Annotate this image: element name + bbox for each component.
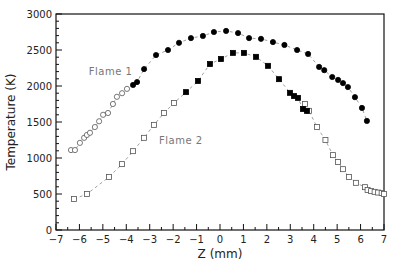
x-tick-label: −2: [166, 234, 181, 245]
open-square-marker: [336, 159, 341, 164]
x-tick-label: 6: [357, 234, 363, 245]
open-circle-marker: [100, 112, 105, 117]
filled-circle-marker: [246, 36, 251, 41]
x-tick-label: −5: [95, 234, 110, 245]
filled-circle-marker: [188, 36, 193, 41]
open-square-marker: [106, 175, 111, 180]
x-tick-label: −1: [189, 234, 204, 245]
filled-circle-marker: [223, 28, 228, 33]
temperature-profile-chart: 050010001500200025003000 −7−6−5−4−3−2−10…: [0, 0, 394, 270]
x-tick-label: −4: [119, 234, 134, 245]
filled-circle-marker: [270, 39, 275, 44]
filled-circle-marker: [330, 74, 335, 79]
filled-square-marker: [195, 78, 200, 83]
filled-square-marker: [207, 62, 212, 67]
filled-square-marker: [254, 54, 259, 59]
x-tick-label: 4: [311, 234, 317, 245]
filled-square-marker: [266, 63, 271, 68]
y-tick-label: 1500: [27, 117, 52, 128]
open-square-marker: [84, 192, 89, 197]
filled-circle-marker: [359, 105, 364, 110]
open-square-marker: [131, 149, 136, 154]
series-trend-line: [71, 31, 367, 150]
open-circle-marker: [110, 101, 115, 106]
open-circle-marker: [77, 140, 82, 145]
open-square-marker: [347, 175, 352, 180]
open-square-marker: [72, 197, 77, 202]
filled-square-marker: [230, 50, 235, 55]
y-axis-ticks: 050010001500200025003000: [27, 9, 62, 236]
open-circle-marker: [114, 94, 119, 99]
filled-circle-marker: [211, 29, 216, 34]
x-tick-label: 3: [287, 234, 293, 245]
filled-circle-marker: [335, 77, 340, 82]
filled-circle-marker: [165, 47, 170, 52]
x-tick-label: 0: [217, 234, 223, 245]
open-square-marker: [151, 122, 156, 127]
filled-circle-marker: [282, 42, 287, 47]
x-tick-label: 1: [240, 234, 246, 245]
open-circle-marker: [97, 119, 102, 124]
filled-square-marker: [277, 77, 282, 82]
open-square-marker: [162, 111, 167, 116]
x-tick-label: −3: [142, 234, 157, 245]
filled-square-marker: [184, 90, 189, 95]
open-circle-marker: [119, 91, 124, 96]
y-tick-label: 2000: [27, 81, 52, 92]
flame-1-label: Flame 1: [89, 66, 133, 77]
y-tick-label: 1000: [27, 153, 52, 164]
y-tick-label: 2500: [27, 45, 52, 56]
open-circle-marker: [92, 124, 97, 129]
y-tick-label: 3000: [27, 9, 52, 20]
open-square-marker: [353, 180, 358, 185]
filled-circle-marker: [340, 81, 345, 86]
filled-circle-marker: [153, 52, 158, 57]
x-tick-label: −7: [49, 234, 64, 245]
filled-circle-marker: [364, 118, 369, 123]
y-axis-title: Temperature (K): [4, 73, 18, 171]
filled-circle-marker: [258, 36, 263, 41]
filled-circle-marker: [235, 30, 240, 35]
x-axis-ticks: −7−6−5−4−3−2−101234567: [49, 224, 388, 245]
open-square-marker: [323, 138, 328, 143]
filled-square-marker: [218, 57, 223, 62]
open-square-marker: [330, 153, 335, 158]
plot-frame: [56, 14, 384, 230]
filled-circle-marker: [305, 51, 310, 56]
x-tick-label: −6: [72, 234, 87, 245]
y-tick-label: 500: [33, 189, 52, 200]
open-circle-marker: [87, 130, 92, 135]
filled-circle-marker: [294, 47, 299, 52]
open-square-marker: [172, 100, 177, 105]
filled-circle-marker: [352, 95, 357, 100]
filled-square-marker: [241, 50, 246, 55]
filled-circle-marker: [134, 79, 139, 84]
x-tick-label: 5: [334, 234, 340, 245]
x-axis-title: Z (mm): [198, 247, 243, 261]
filled-circle-marker: [176, 40, 181, 45]
open-circle-marker: [72, 147, 77, 152]
open-square-marker: [314, 125, 319, 130]
filled-square-marker: [304, 108, 309, 113]
open-circle-marker: [124, 86, 129, 91]
x-tick-label: 2: [264, 234, 270, 245]
filled-circle-marker: [322, 68, 327, 73]
filled-circle-marker: [141, 66, 146, 71]
open-square-marker: [142, 135, 147, 140]
filled-square-marker: [296, 95, 301, 100]
open-square-marker: [382, 192, 387, 197]
open-square-marker: [341, 167, 346, 172]
filled-circle-marker: [317, 64, 322, 69]
open-square-marker: [303, 102, 308, 107]
data-series: [68, 28, 386, 201]
filled-circle-marker: [200, 33, 205, 38]
filled-circle-marker: [345, 84, 350, 89]
open-circle-marker: [105, 110, 110, 115]
flame-2-label: Flame 2: [159, 135, 203, 146]
x-tick-label: 7: [381, 234, 387, 245]
open-square-marker: [120, 162, 125, 167]
